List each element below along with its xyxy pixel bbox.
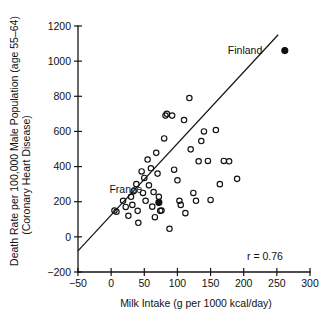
y-tick-label: 600 (53, 125, 71, 137)
data-point-open (183, 210, 188, 215)
data-point-open (145, 157, 150, 162)
data-point-filled (156, 199, 162, 205)
data-point-open (205, 158, 210, 163)
tick-marks (74, 26, 310, 276)
x-tick-label: 250 (268, 277, 286, 289)
data-point-open (154, 150, 159, 155)
y-tick-label: 200 (53, 195, 71, 207)
data-point-open (156, 194, 161, 199)
data-point-open (201, 129, 206, 134)
annotation-finland: Finland (228, 44, 263, 56)
data-point-open (136, 220, 141, 225)
x-tick-label: 200 (235, 277, 253, 289)
trend-line (78, 35, 278, 251)
x-tick-label: 50 (138, 277, 150, 289)
y-tick-label: 400 (53, 160, 71, 172)
y-tick-label: 0 (65, 231, 71, 243)
data-point-open (135, 208, 140, 213)
y-axis-tick-labels: −200020040060080010001200 (47, 20, 71, 278)
data-point-open (150, 204, 155, 209)
annotation-france: France (109, 183, 142, 195)
axes (78, 26, 310, 272)
x-tick-label: 0 (108, 277, 114, 289)
x-tick-label: 150 (202, 277, 220, 289)
regression-line (78, 35, 278, 251)
data-point-open (169, 113, 174, 118)
data-point-open (213, 127, 218, 132)
data-point-filled (282, 48, 288, 54)
x-axis-title: Milk Intake (g per 1000 kcal/day) (120, 297, 272, 309)
data-point-open (123, 204, 128, 209)
data-point-open (188, 147, 193, 152)
data-point-open (226, 159, 231, 164)
data-point-open (234, 176, 239, 181)
data-points (112, 48, 288, 232)
data-point-open (161, 136, 166, 141)
data-point-open (217, 181, 222, 186)
data-point-open (191, 190, 196, 195)
x-tick-label: 300 (301, 277, 319, 289)
x-tick-label: 100 (169, 277, 187, 289)
data-point-open (199, 138, 204, 143)
data-point-open (148, 166, 153, 171)
y-tick-label: 1000 (48, 55, 72, 67)
plot-canvas: −200020040060080010001200 −5005010015020… (0, 0, 322, 328)
data-point-open (167, 226, 172, 231)
data-point-open (208, 197, 213, 202)
y-tick-label: 1200 (48, 20, 72, 32)
data-point-open (155, 171, 160, 176)
annotations: FinlandFrancer = 0.76 (109, 44, 283, 262)
data-point-open (171, 167, 176, 172)
scatter-plot-figure: −200020040060080010001200 −5005010015020… (0, 0, 322, 328)
data-point-open (221, 158, 226, 163)
data-point-open (143, 198, 148, 203)
data-point-open (139, 169, 144, 174)
data-point-open (151, 189, 156, 194)
y-axis-title-line-2: (Coronary Heart Disease) (20, 115, 32, 235)
data-point-open (181, 117, 186, 122)
data-point-open (193, 198, 198, 203)
x-tick-label: −50 (69, 277, 87, 289)
data-point-open (175, 178, 180, 183)
y-tick-label: −200 (47, 266, 71, 278)
data-point-open (130, 202, 135, 207)
x-axis-tick-labels: −50050100150200250300 (69, 277, 319, 289)
annotation-r-0-76: r = 0.76 (247, 250, 283, 262)
data-point-open (196, 159, 201, 164)
y-axis-title-line-1: Death Rate per 100,000 Male Population (… (8, 16, 20, 266)
data-point-open (146, 183, 151, 188)
data-point-open (187, 95, 192, 100)
data-point-open (126, 213, 131, 218)
data-point-open (152, 214, 157, 219)
y-tick-label: 800 (53, 90, 71, 102)
